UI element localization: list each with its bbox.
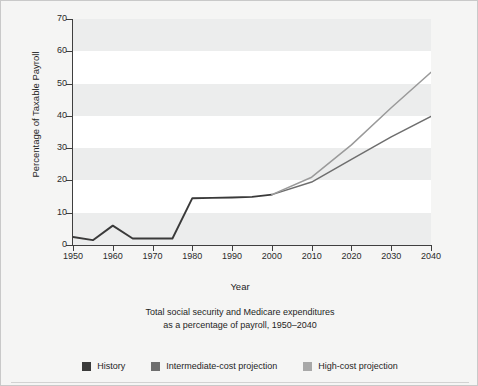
series-line-intermediate-cost bbox=[272, 117, 431, 195]
x-axis-tick-label: 2030 bbox=[371, 251, 411, 261]
legend-item: Intermediate-cost projection bbox=[151, 361, 277, 371]
legend-swatch-icon bbox=[151, 362, 160, 371]
x-axis-tick-label: 2040 bbox=[411, 251, 451, 261]
legend-label: Intermediate-cost projection bbox=[166, 361, 277, 371]
x-axis-tick-label: 1980 bbox=[172, 251, 212, 261]
caption-line-2: as a percentage of payroll, 1950–2040 bbox=[1, 319, 478, 332]
series-line-high-cost bbox=[272, 72, 431, 194]
x-axis-tick-label: 2000 bbox=[252, 251, 292, 261]
legend-item: History bbox=[82, 361, 125, 371]
x-axis-tick-label: 2020 bbox=[331, 251, 371, 261]
chart-legend: HistoryIntermediate-cost projectionHigh-… bbox=[1, 361, 478, 371]
x-axis-line bbox=[72, 245, 432, 246]
legend-swatch-icon bbox=[303, 362, 312, 371]
y-axis-tick-label: 50 bbox=[45, 79, 67, 88]
caption-line-1: Total social security and Medicare expen… bbox=[1, 306, 478, 319]
y-axis-tick-label: 20 bbox=[45, 175, 67, 184]
legend-item: High-cost projection bbox=[303, 361, 398, 371]
x-axis-tick-label: 2010 bbox=[292, 251, 332, 261]
legend-label: History bbox=[97, 361, 125, 371]
legend-swatch-icon bbox=[82, 362, 91, 371]
chart-caption: Total social security and Medicare expen… bbox=[1, 306, 478, 332]
y-axis-title: Percentage of Taxable Payroll bbox=[30, 15, 41, 215]
x-axis-tick-label: 1990 bbox=[212, 251, 252, 261]
series-line-history bbox=[73, 195, 272, 241]
x-axis-tick-label: 1970 bbox=[133, 251, 173, 261]
y-axis-tick-label: 40 bbox=[45, 111, 67, 120]
x-axis-title: Year bbox=[1, 281, 478, 292]
series-canvas bbox=[73, 19, 431, 245]
y-axis-line bbox=[72, 19, 73, 246]
x-axis-tick-label: 1950 bbox=[53, 251, 93, 261]
y-axis-tick-label: 0 bbox=[45, 240, 67, 249]
y-axis-tick-label: 70 bbox=[45, 14, 67, 23]
legend-label: High-cost projection bbox=[318, 361, 398, 371]
legend-divider bbox=[11, 382, 469, 383]
y-axis-tick-label: 30 bbox=[45, 143, 67, 152]
plot-area bbox=[73, 19, 431, 245]
y-axis-tick-label: 60 bbox=[45, 46, 67, 55]
x-axis-tick-label: 1960 bbox=[93, 251, 133, 261]
chart-figure: 010203040506070 195019601970198019902000… bbox=[0, 0, 478, 386]
y-axis-tick-label: 10 bbox=[45, 208, 67, 217]
